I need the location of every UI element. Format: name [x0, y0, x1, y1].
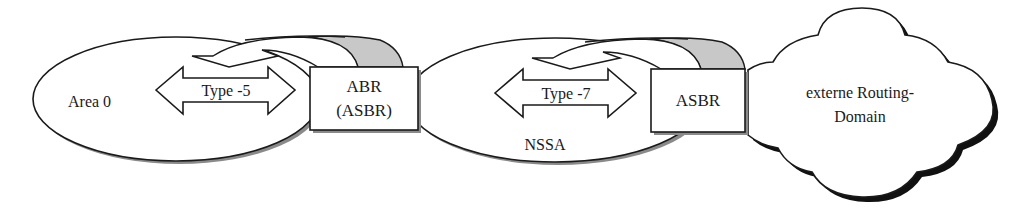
external-domain-cloud: [748, 8, 998, 202]
external-domain-label-line1: externe Routing-: [806, 84, 914, 102]
area-0-label: Area 0: [68, 93, 111, 110]
external-domain-label-line2: Domain: [834, 108, 886, 125]
abr-router-box: ABR (ASBR): [310, 67, 421, 133]
type7-label: Type -7: [541, 85, 590, 103]
abr-label: ABR: [347, 77, 383, 96]
type5-label: Type -5: [201, 82, 250, 100]
ospf-nssa-diagram: Type -5 Type -7 ABR (ASBR) ASBR Area 0 N…: [0, 0, 1034, 217]
nssa-label: NSSA: [525, 136, 566, 153]
asbr-router-box: ASBR: [651, 69, 748, 135]
asbr-label: ASBR: [676, 91, 721, 110]
abr-asbr-label: (ASBR): [336, 101, 392, 120]
